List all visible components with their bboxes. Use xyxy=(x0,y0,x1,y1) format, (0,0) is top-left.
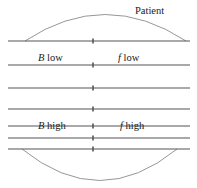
slice-line-5 xyxy=(8,124,190,129)
slice-line-7 xyxy=(8,147,190,152)
patient-slice-diagram: Patient B low f low B high f high xyxy=(0,0,197,188)
slice-line-3 xyxy=(8,86,190,91)
patient-top-arc xyxy=(25,15,186,42)
slice-line-1 xyxy=(8,39,190,44)
label-b-high: B high xyxy=(38,121,66,132)
patient-label-text: Patient xyxy=(135,5,164,16)
patient-bottom-arc xyxy=(22,149,177,181)
label-f-low: f low xyxy=(118,53,139,64)
b-high-word: high xyxy=(47,120,66,131)
label-f-high: f high xyxy=(120,121,144,132)
diagram-canvas xyxy=(0,0,197,188)
f-low-word: low xyxy=(124,52,140,63)
f-high-word: high xyxy=(126,120,145,131)
patient-label: Patient xyxy=(135,6,164,17)
slice-line-4 xyxy=(8,107,190,112)
b-low-word: low xyxy=(47,52,63,63)
label-b-low: B low xyxy=(38,53,63,64)
slice-line-2 xyxy=(8,63,190,68)
slice-line-6 xyxy=(8,136,190,141)
